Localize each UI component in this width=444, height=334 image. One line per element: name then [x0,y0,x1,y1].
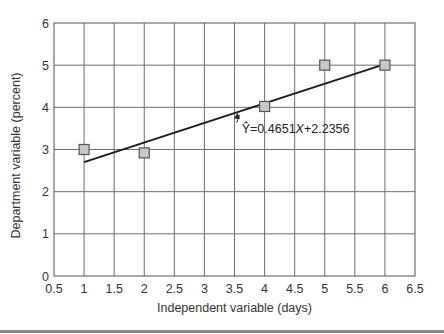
bottom-divider [0,330,444,333]
y-tick-label: 1 [42,227,49,241]
x-tick-label: 6.5 [406,282,423,296]
grid-lines [54,23,415,276]
equation-annotation: Ŷ=0.4651X+2.2356 [234,113,349,136]
y-axis-label: Department variable (percent) [9,72,23,238]
x-axis-label: Independent variable (days) [157,301,312,315]
data-point-square [380,60,390,70]
y-tick-label: 4 [42,101,49,115]
x-axis-ticks: 0.511.522.533.544.555.566.5 [45,282,423,296]
data-point-square [139,148,149,158]
y-tick-label: 6 [42,17,49,31]
data-point-square [320,60,330,70]
data-point-square [260,101,270,111]
x-tick-label: 5.5 [346,282,363,296]
x-tick-label: 6 [381,282,388,296]
x-tick-label: 3 [201,282,208,296]
x-tick-label: 3.5 [226,282,243,296]
x-tick-label: 1.5 [105,282,122,296]
x-tick-label: 4 [261,282,268,296]
regression-equation: Ŷ=0.4651X+2.2356 [242,121,350,136]
y-axis-ticks: 0123456 [42,17,49,284]
x-tick-label: 5 [321,282,328,296]
x-tick-label: 4.5 [286,282,303,296]
scatter-chart: 0.511.522.533.544.555.566.5 0123456 Ŷ=0.… [0,0,444,334]
y-tick-label: 3 [42,143,49,157]
y-tick-label: 5 [42,59,49,73]
y-tick-label: 0 [42,270,49,284]
x-tick-label: 2 [141,282,148,296]
x-tick-label: 0.5 [45,282,62,296]
x-tick-label: 2.5 [166,282,183,296]
y-tick-label: 2 [42,185,49,199]
x-tick-label: 1 [81,282,88,296]
data-point-square [79,145,89,155]
